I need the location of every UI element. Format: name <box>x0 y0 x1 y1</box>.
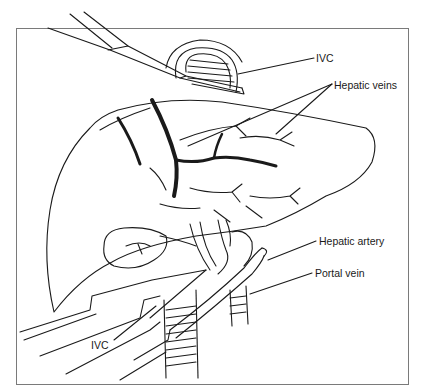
upper-vascular-clamp <box>48 12 244 94</box>
ivc-upper-vessel <box>166 40 242 92</box>
hilar-vessels <box>160 220 252 274</box>
portal-vein-leader <box>250 273 312 294</box>
surgical-illustration: IVC Hepatic veins Hepatic artery Portal … <box>0 0 423 392</box>
label-ivc-top: IVC <box>316 52 334 64</box>
label-ivc-bottom: IVC <box>91 339 109 351</box>
hepatic-artery-leader <box>268 241 316 260</box>
lower-vascular-clamps <box>20 270 206 380</box>
label-hepatic-veins: Hepatic veins <box>334 79 397 91</box>
liver <box>47 100 375 312</box>
ivc-lower-vessel <box>164 286 248 378</box>
label-hepatic-artery: Hepatic artery <box>319 235 384 247</box>
label-portal-vein: Portal vein <box>315 267 365 279</box>
liver-line-art <box>0 0 423 392</box>
ivc-top-leader <box>238 58 314 74</box>
ivc-bottom-leader <box>114 306 156 340</box>
